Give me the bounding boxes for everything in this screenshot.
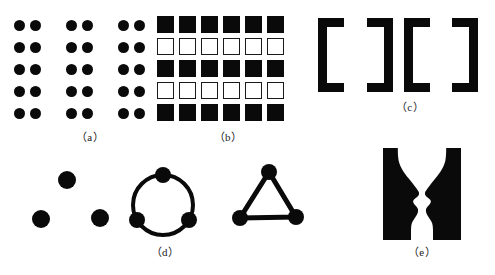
panel-e-figure-ground bbox=[0, 0, 495, 275]
rubin-vase-svg bbox=[383, 148, 461, 240]
gestalt-figure: （a） （b） （c） （d） （e） bbox=[0, 0, 495, 275]
caption-e: （e） bbox=[392, 243, 452, 259]
goblet-stem-base bbox=[411, 229, 433, 240]
